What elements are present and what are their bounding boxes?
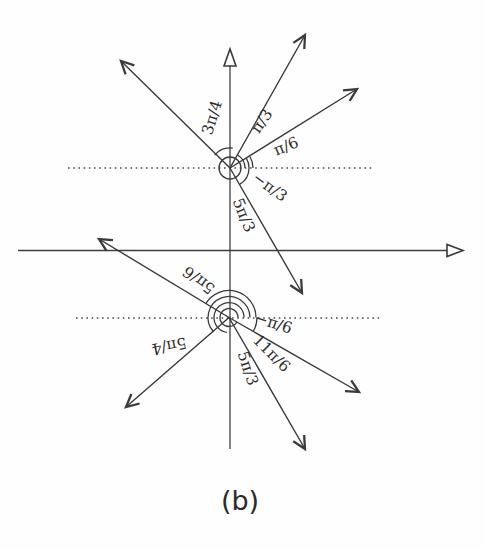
diagram-canvas: 3π/4 π/3 π/6 −π/3 5π/3 5π/6 5π/4 −π/6 11… <box>0 0 485 548</box>
upper-label-neg-pi-over-3: −π/3 <box>249 168 291 205</box>
upper-label-5pi-over-3: 5π/3 <box>229 195 259 234</box>
upper-arc-neg-pi-over-3 <box>240 168 249 184</box>
lower-label-5pi-over-4: 5π/4 <box>150 333 188 358</box>
figure-caption: (b) <box>221 485 259 516</box>
upper-label-pi-over-6: π/6 <box>271 133 301 159</box>
upper-label-pi-over-3: π/3 <box>247 106 276 137</box>
y-axis-arrowhead-icon <box>224 49 236 66</box>
x-axis-arrowhead-icon <box>447 245 463 257</box>
lower-label-5pi-over-3: 5π/3 <box>234 349 262 388</box>
lower-label-5pi-over-6: 5π/6 <box>180 262 219 298</box>
angles-standard-position-diagram: 3π/4 π/3 π/6 −π/3 5π/3 5π/6 5π/4 −π/6 11… <box>0 0 485 548</box>
upper-arc-pi-over-6-outer <box>250 157 253 169</box>
upper-arc-pi-over-6-inner <box>246 158 249 168</box>
upper-label-3pi-over-4: 3π/4 <box>198 98 226 137</box>
